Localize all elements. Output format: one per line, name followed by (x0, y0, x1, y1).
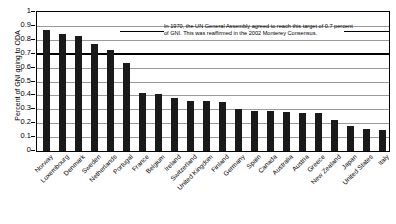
y-axis-tick-mark (31, 150, 35, 151)
annotation-note: In 1970, the UN General Assembly agreed … (164, 23, 388, 37)
bar (283, 112, 290, 151)
bar (219, 102, 226, 151)
y-axis-tick-mark (31, 136, 35, 137)
y-axis-tick-label: 0.2 (21, 118, 31, 126)
y-axis-tick-label: 0.9 (21, 21, 31, 29)
y-axis-tick-mark (31, 122, 35, 123)
bar (91, 44, 98, 151)
bar (315, 113, 322, 151)
x-axis-category-label: Italy (376, 153, 390, 167)
y-axis-tick-mark (31, 94, 35, 95)
bar (379, 130, 386, 151)
y-axis-tick-mark (31, 108, 35, 109)
annotation-line-2: of GNI. This was reaffirmed in the 2002 … (164, 30, 388, 37)
y-axis-tick-mark (31, 25, 35, 26)
bar (363, 129, 370, 151)
bar-chart: Percent of GNI going to ODA 00.10.20.30.… (0, 0, 396, 224)
y-axis-tick-label: 0.1 (21, 132, 31, 140)
bar (139, 93, 146, 151)
x-axis-category-labels: NorwayLuxembourgDenmarkSwedenNetherlands… (36, 153, 390, 223)
y-axis-tick-label: 0.5 (21, 77, 31, 85)
y-axis-tick-label: 0.4 (21, 90, 31, 98)
bar (171, 98, 178, 151)
bar (107, 50, 114, 151)
bar (155, 94, 162, 151)
y-axis-tick-mark (31, 81, 35, 82)
bar (251, 111, 258, 151)
bar (187, 101, 194, 151)
y-axis-tick-mark (31, 39, 35, 40)
annotation-line-1: In 1970, the UN General Assembly agreed … (164, 23, 388, 30)
bar (299, 113, 306, 151)
y-axis-tick-labels: 00.10.20.30.40.50.60.70.80.91 (0, 0, 34, 224)
bar (331, 120, 338, 151)
y-axis-tick-label: 0.6 (21, 63, 31, 71)
y-axis-tick-mark (31, 11, 35, 12)
bar (75, 36, 82, 151)
y-axis-tick-mark (31, 53, 35, 54)
bar (235, 109, 242, 151)
y-axis-tick-label: 0.8 (21, 35, 31, 43)
bar (267, 111, 274, 151)
y-axis-tick-label: 0.7 (21, 49, 31, 57)
y-axis-tick-mark (31, 67, 35, 68)
bar (59, 34, 66, 151)
annotation-leader-left (120, 31, 164, 32)
bar (203, 101, 210, 151)
y-axis-tick-label: 0.3 (21, 104, 31, 112)
bar (123, 63, 130, 151)
bar (347, 126, 354, 151)
bar (43, 30, 50, 151)
